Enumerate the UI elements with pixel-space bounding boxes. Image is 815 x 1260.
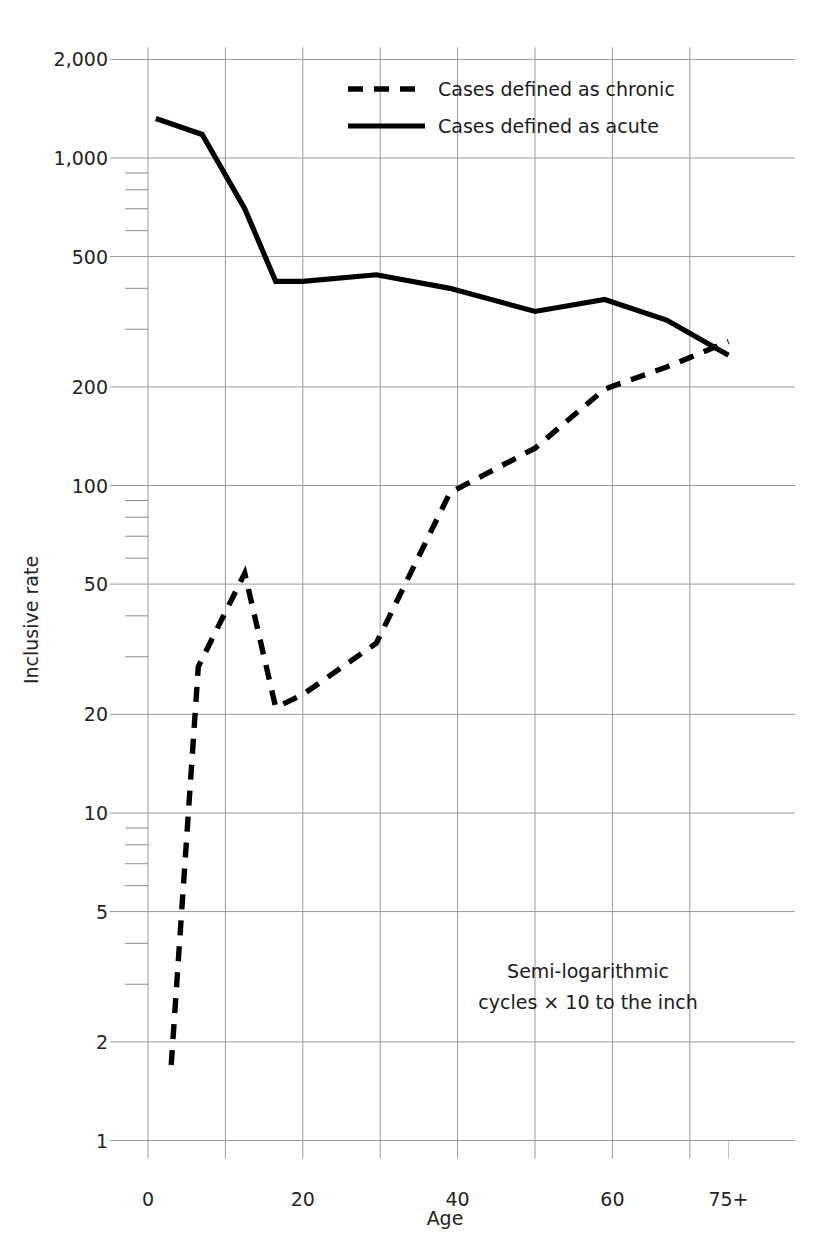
y-tick-label-2: 2 [96,1031,108,1053]
y-tick-label-20: 20 [84,703,108,725]
annotation-line-1: Semi-logarithmic [507,960,669,982]
y-tick-label-100: 100 [72,475,108,497]
x-tick-label-60: 60 [600,1188,624,1210]
y-tick-label-500: 500 [72,246,108,268]
x-tick-label-20: 20 [291,1188,315,1210]
x-tick-label-0: 0 [142,1188,154,1210]
y-tick-label-5: 5 [96,901,108,923]
chart-figure: 2,0001,000500200100502010521 020406075+ … [0,0,815,1260]
y-tick-label-1000: 1,000 [54,147,108,169]
y-axis-title: Inclusive rate [20,556,42,684]
annotation-line-2: cycles × 10 to the inch [478,991,697,1013]
x-axis-title: Age [427,1207,464,1229]
chart-background [0,0,815,1260]
y-tick-label-200: 200 [72,376,108,398]
legend-label-acute: Cases defined as acute [438,115,659,137]
y-tick-label-2000: 2,000 [54,48,108,70]
y-tick-label-50: 50 [84,573,108,595]
y-tick-label-1: 1 [96,1130,108,1152]
legend-label-chronic: Cases defined as chronic [438,78,675,100]
semilog-line-chart: 2,0001,000500200100502010521 020406075+ … [0,0,815,1260]
y-tick-label-10: 10 [84,802,108,824]
x-tick-label-75+: 75+ [708,1188,748,1210]
